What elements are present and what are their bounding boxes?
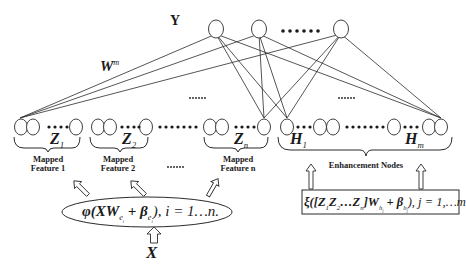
group-label-zn: Zn: [234, 130, 248, 150]
feature-node: [92, 119, 105, 135]
caption-mapped-feature-1: Mapped Feature 1: [25, 155, 71, 173]
arrow-to-feature-n: [204, 176, 222, 198]
enhancement-formula: ξ([Z1Z2…Zn]Whj + βhj), j = 1,…m: [304, 195, 466, 213]
connection-lines: [20, 34, 441, 118]
enhancement-node: [423, 119, 436, 135]
brace-z2: [90, 137, 148, 152]
feature-node: [258, 119, 271, 135]
output-node: [334, 20, 349, 38]
weight-symbol: W: [100, 58, 113, 74]
brace-z1: [14, 137, 80, 152]
output-node: [252, 20, 267, 38]
arrow-to-feature-1: [70, 177, 91, 198]
enhancement-node: [435, 119, 448, 135]
weight-label: Wm: [100, 58, 119, 75]
feature-node: [204, 119, 217, 135]
mapping-formula: φ(XWei + βei), i = 1…n.: [82, 203, 219, 224]
output-node: [209, 20, 224, 38]
enhancement-arrow-left: [306, 164, 316, 189]
output-layer: [209, 20, 349, 38]
group-label-h1: H1: [290, 130, 307, 150]
feature-node: [216, 119, 229, 135]
feature-node: [140, 119, 153, 135]
output-label: Y: [170, 13, 180, 29]
enhancement-node: [388, 119, 401, 135]
caption-enhancement-nodes: Enhancement Nodes: [316, 161, 416, 170]
enhancement-arrow-right: [416, 164, 426, 189]
feature-node: [27, 119, 40, 135]
enhancement-node: [327, 119, 340, 135]
feature-node: [104, 119, 117, 135]
caption-mapped-feature-2: Mapped Feature 2: [95, 155, 141, 173]
group-label-hm: Hm: [405, 130, 424, 150]
group-label-z2: Z2: [122, 130, 136, 150]
small-dots: [47, 29, 418, 168]
weight-superscript: m: [113, 58, 119, 67]
group-label-z1: Z1: [50, 130, 64, 150]
input-arrow: [147, 227, 161, 243]
feature-node: [15, 119, 28, 135]
feature-node: [70, 119, 83, 135]
arrow-to-feature-2: [127, 177, 148, 198]
caption-mapped-feature-n: Mapped Feature n: [214, 155, 262, 173]
input-label: X: [146, 243, 157, 263]
enhancement-node: [314, 119, 327, 135]
